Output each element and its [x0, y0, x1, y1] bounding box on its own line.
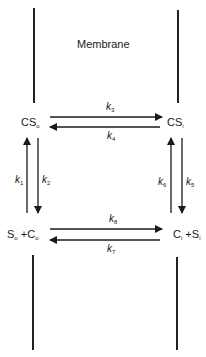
rate-k5: k5: [186, 177, 194, 188]
state-cs-inside: CSi: [167, 117, 184, 129]
rate-k6: k6: [158, 177, 166, 188]
rate-k8: k8: [109, 214, 117, 225]
rate-k7: k7: [107, 244, 115, 255]
rate-k4: k4: [107, 131, 115, 142]
state-cs-outside: CSo: [21, 117, 40, 129]
state-free-outside: So +Co: [7, 229, 38, 241]
rate-k3: k3: [106, 102, 114, 113]
state-free-inside: Ci +Si: [173, 229, 200, 241]
rate-k1: k1: [15, 175, 23, 186]
rate-k2: k2: [42, 175, 50, 186]
arrows-layer: [0, 0, 206, 357]
